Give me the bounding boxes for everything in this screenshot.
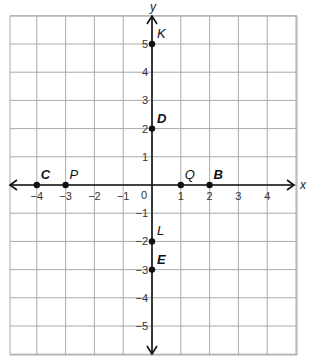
point-d-label: D bbox=[157, 111, 167, 126]
y-axis-label: y bbox=[149, 0, 157, 14]
coordinate-plane: −4−3−2−1123454321−1−2−3−4−5 KDCPQBLE x y… bbox=[0, 0, 310, 360]
y-tick-label: −4 bbox=[135, 292, 148, 304]
axes bbox=[10, 16, 294, 354]
y-tick-label: 3 bbox=[142, 94, 148, 106]
y-tick-label: −5 bbox=[135, 320, 148, 332]
point-q-label: Q bbox=[185, 167, 195, 182]
point-l-dot bbox=[149, 238, 155, 244]
point-e-label: E bbox=[157, 252, 166, 267]
x-tick-label: 4 bbox=[264, 190, 270, 202]
point-b-dot bbox=[206, 182, 212, 188]
point-l-label: L bbox=[157, 223, 164, 238]
y-tick-label: 1 bbox=[142, 151, 148, 163]
point-e-dot bbox=[149, 266, 155, 272]
y-tick-label: −2 bbox=[135, 235, 148, 247]
point-p-dot bbox=[62, 182, 68, 188]
y-tick-label: −1 bbox=[135, 207, 148, 219]
origin-label: 0 bbox=[141, 189, 147, 201]
x-tick-label: −1 bbox=[117, 190, 130, 202]
point-b-label: B bbox=[214, 167, 223, 182]
point-k-dot bbox=[149, 41, 155, 47]
point-k-label: K bbox=[157, 26, 167, 41]
x-tick-label: 3 bbox=[235, 190, 241, 202]
y-tick-label: −3 bbox=[135, 264, 148, 276]
y-tick-label: 2 bbox=[142, 123, 148, 135]
x-tick-label: 2 bbox=[207, 190, 213, 202]
x-tick-label: −4 bbox=[31, 190, 44, 202]
x-tick-label: −3 bbox=[59, 190, 72, 202]
points: KDCPQBLE bbox=[34, 26, 223, 273]
point-d-dot bbox=[149, 125, 155, 131]
y-tick-label: 5 bbox=[142, 38, 148, 50]
x-axis-label: x bbox=[299, 178, 307, 192]
x-tick-label: −2 bbox=[88, 190, 101, 202]
x-tick-label: 1 bbox=[178, 190, 184, 202]
point-c-label: C bbox=[41, 167, 51, 182]
point-p-label: P bbox=[70, 167, 79, 182]
y-tick-label: 4 bbox=[142, 66, 148, 78]
point-q-dot bbox=[178, 182, 184, 188]
point-c-dot bbox=[34, 182, 40, 188]
